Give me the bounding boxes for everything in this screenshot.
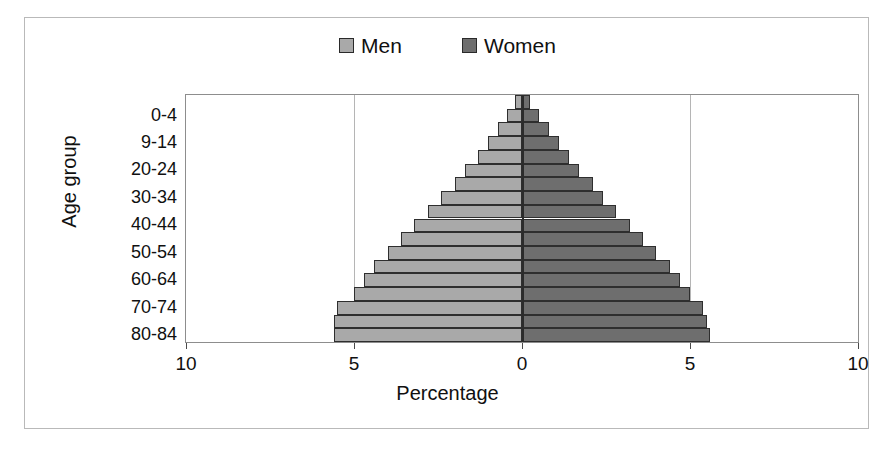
bar-women — [522, 164, 579, 178]
bar-men — [334, 315, 522, 329]
bar-women — [522, 136, 559, 150]
x-axis-tick — [354, 343, 355, 349]
bar-men — [515, 95, 522, 109]
plot-inner — [186, 95, 858, 342]
bar-women — [522, 219, 630, 233]
bar-men — [478, 150, 522, 164]
legend-entry-women: Women — [462, 35, 556, 56]
bar-women — [522, 273, 680, 287]
x-axis-tick-label: 10 — [175, 353, 196, 375]
y-axis-tick-label: 20-24 — [131, 159, 177, 180]
bar-men — [354, 287, 522, 301]
bar-women — [522, 232, 643, 246]
bar-men — [428, 205, 522, 219]
bar-men — [364, 273, 522, 287]
bar-men — [507, 109, 522, 123]
bar-women — [522, 150, 569, 164]
x-axis-tick — [186, 343, 187, 349]
legend-entry-men: Men — [339, 35, 402, 56]
bar-men — [455, 177, 522, 191]
bar-women — [522, 315, 707, 329]
bar-men — [414, 219, 522, 233]
chart-figure: Men Women Age group 80-8470-7460-6450-54… — [24, 17, 869, 429]
y-axis-tick-label: 70-74 — [131, 296, 177, 317]
bar-men — [498, 122, 522, 136]
x-axis-title: Percentage — [25, 382, 870, 405]
legend-swatch-men-icon — [339, 38, 354, 53]
y-axis-tick-label: 40-44 — [131, 214, 177, 235]
zero-axis-line — [522, 95, 524, 342]
bar-women — [522, 260, 670, 274]
bar-men — [488, 136, 522, 150]
plot-area — [185, 94, 859, 343]
bar-women — [522, 301, 703, 315]
bar-men — [388, 246, 522, 260]
y-axis-tick-label: 60-64 — [131, 269, 177, 290]
bar-women — [522, 246, 656, 260]
bar-men — [401, 232, 522, 246]
y-axis-tick-label: 0-4 — [151, 104, 177, 125]
bar-men — [334, 328, 522, 342]
legend-label-women: Women — [484, 35, 556, 56]
bar-men — [441, 191, 522, 205]
chart-legend: Men Women — [25, 28, 870, 62]
bar-women — [522, 177, 593, 191]
y-axis-tick-label: 80-84 — [131, 324, 177, 345]
x-axis-tick-label: 5 — [685, 353, 696, 375]
y-axis-tick-label: 9-14 — [141, 132, 177, 153]
legend-label-men: Men — [361, 35, 402, 56]
bar-men — [374, 260, 522, 274]
legend-swatch-women-icon — [462, 38, 477, 53]
bar-men — [465, 164, 522, 178]
y-axis-tick-label: 50-54 — [131, 241, 177, 262]
x-axis-tick-label: 0 — [517, 353, 528, 375]
x-axis-tick — [522, 343, 523, 349]
x-axis-tick — [858, 343, 859, 349]
bar-women — [522, 122, 549, 136]
bar-women — [522, 191, 603, 205]
x-axis-tick — [690, 343, 691, 349]
bar-men — [337, 301, 522, 315]
bar-women — [522, 328, 710, 342]
x-axis-tick-label: 5 — [349, 353, 360, 375]
y-axis-tick-label: 30-34 — [131, 186, 177, 207]
bar-women — [522, 109, 539, 123]
bar-women — [522, 287, 690, 301]
x-axis-tick-label: 10 — [847, 353, 868, 375]
y-axis-tick-labels: 80-8470-7460-6450-5440-4430-3420-249-140… — [25, 94, 177, 343]
bar-women — [522, 205, 616, 219]
